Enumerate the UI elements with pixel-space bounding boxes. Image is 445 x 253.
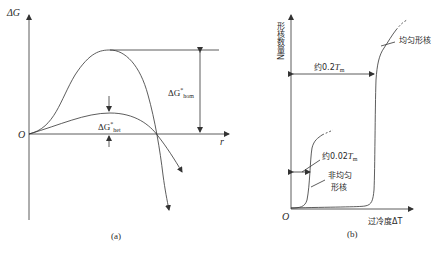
a-het-barrier-sub: het: [113, 127, 120, 133]
b-het-label-line2: 形核: [331, 184, 347, 192]
b-het-interval-sub: m: [353, 156, 358, 162]
a-origin-label: O: [18, 130, 25, 140]
a-y-axis-label: ΔG: [7, 8, 20, 18]
b-hom-interval-sub: m: [340, 67, 345, 73]
b-hom-curve: [291, 30, 396, 208]
a-x-axis-label: r: [220, 137, 224, 147]
a-hom-barrier-label: ΔG*hom: [168, 87, 194, 99]
b-hom-label-leader: [381, 42, 395, 46]
b-origin-label: O: [282, 212, 289, 222]
panel-b-graph: [291, 15, 413, 209]
b-het-interval-label: 约0.02Tm: [322, 152, 358, 162]
a-caption: (a): [111, 232, 121, 241]
b-y-axis-label: 形核数量N: [275, 22, 283, 60]
b-het-curve: [291, 135, 322, 208]
panel-a-graph: [29, 15, 229, 220]
a-hom-barrier-base: ΔG: [168, 88, 180, 98]
b-hom-interval-prefix: 约0.2: [314, 63, 335, 72]
b-hom-label: 均匀形核: [399, 37, 431, 45]
b-hom-interval-label: 约0.2Tm: [314, 63, 344, 73]
b-caption: (b): [347, 230, 358, 239]
b-het-label-line1: 非均匀: [328, 172, 352, 180]
a-hom-barrier-sub: hom: [183, 93, 194, 99]
a-het-barrier-base: ΔG: [98, 122, 110, 132]
b-het-label-leader: [311, 180, 325, 187]
a-het-barrier-label: ΔG*het: [98, 121, 121, 133]
b-het-interval-prefix: 约0.02: [322, 152, 348, 161]
b-x-axis-label: 过冷度ΔT: [368, 218, 402, 226]
diagram-canvas: [0, 0, 445, 253]
